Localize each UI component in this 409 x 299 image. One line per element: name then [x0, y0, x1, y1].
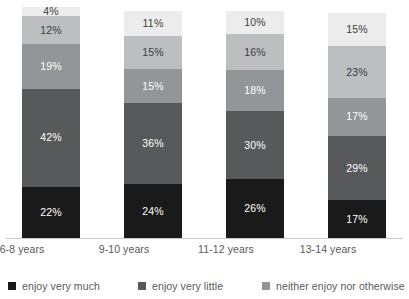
plot-area: 4%12%19%42%22%11%15%15%36%24%10%16%18%30… — [0, 0, 409, 240]
bar-segment[interactable]: 16% — [226, 34, 284, 70]
bar-segment[interactable]: 15% — [124, 36, 182, 70]
bar-segment[interactable]: 22% — [22, 187, 80, 238]
legend-item[interactable]: enjoy very little — [138, 280, 223, 292]
bar-segment[interactable]: 17% — [328, 98, 386, 136]
bar-segment[interactable]: 17% — [328, 200, 386, 238]
bar-segment[interactable]: 30% — [226, 111, 284, 179]
bar-segment-value-label: 17% — [346, 214, 368, 225]
bar-segment-value-label: 11% — [143, 18, 164, 29]
bar-segment-value-label: 10% — [244, 17, 266, 28]
legend-item[interactable]: neither enjoy nor otherwise — [262, 280, 405, 292]
bar-segment-value-label: 29% — [346, 163, 368, 174]
bar-segment[interactable]: 24% — [124, 184, 182, 238]
bar-segment[interactable]: 12% — [22, 16, 80, 44]
legend-swatch-icon — [8, 282, 16, 290]
bar-segment-value-label: 42% — [40, 132, 62, 143]
category-axis-label: 6-8 years — [0, 243, 67, 255]
bar-segment[interactable]: 11% — [124, 11, 182, 36]
bar-segment-value-label: 17% — [346, 111, 368, 122]
bar-segment-value-label: 30% — [244, 140, 266, 151]
bar-group[interactable]: 4%12%19%42%22% — [22, 7, 80, 238]
legend-label: enjoy very little — [152, 280, 223, 292]
bar-group[interactable]: 10%16%18%30%26% — [226, 11, 284, 238]
bar-segment[interactable]: 10% — [226, 11, 284, 34]
bar-segment[interactable]: 26% — [226, 179, 284, 238]
bar-segment-value-label: 22% — [40, 207, 62, 218]
bar-group[interactable]: 15%23%17%29%17% — [328, 13, 386, 238]
bar-segment[interactable]: 18% — [226, 70, 284, 111]
category-axis-label: 9-10 years — [79, 243, 169, 255]
bar-segment-value-label: 15% — [346, 24, 368, 35]
category-axis-label: 11-12 years — [181, 243, 271, 255]
bar-segment-value-label: 16% — [244, 47, 266, 58]
bar-segment[interactable]: 15% — [124, 69, 182, 103]
bar-segment-value-label: 12% — [40, 25, 62, 36]
bar-segment[interactable]: 15% — [328, 13, 386, 46]
category-axis: 6-8 years9-10 years11-12 years13-14 year… — [0, 243, 409, 265]
legend-swatch-icon — [138, 282, 146, 290]
legend-label: neither enjoy nor otherwise — [276, 280, 405, 292]
stacked-bar-chart: 4%12%19%42%22%11%15%15%36%24%10%16%18%30… — [0, 0, 409, 299]
bar-segment[interactable]: 29% — [328, 136, 386, 201]
bar-segment-value-label: 26% — [244, 203, 266, 214]
category-axis-label: 13-14 years — [283, 243, 373, 255]
bar-segment-value-label: 15% — [142, 81, 164, 92]
bar-segment-value-label: 23% — [346, 67, 368, 78]
bar-segment-value-label: 24% — [142, 206, 164, 217]
bar-segment-value-label: 19% — [40, 61, 62, 72]
bar-segment[interactable]: 23% — [328, 46, 386, 97]
bar-group[interactable]: 11%15%15%36%24% — [124, 11, 182, 238]
bar-segment-value-label: 4% — [43, 7, 59, 16]
chart-legend: enjoy very muchenjoy very littleneither … — [0, 277, 409, 295]
bar-segment-value-label: 36% — [142, 138, 164, 149]
bar-segment-value-label: 18% — [244, 85, 266, 96]
bar-segment[interactable]: 19% — [22, 44, 80, 88]
bar-segment[interactable]: 36% — [124, 103, 182, 184]
bar-segment[interactable]: 42% — [22, 89, 80, 187]
bar-segment[interactable]: 4% — [22, 7, 80, 16]
legend-swatch-icon — [262, 282, 270, 290]
legend-item[interactable]: enjoy very much — [8, 280, 100, 292]
bar-segment-value-label: 15% — [142, 47, 164, 58]
legend-label: enjoy very much — [22, 280, 100, 292]
x-axis-line — [6, 238, 403, 239]
